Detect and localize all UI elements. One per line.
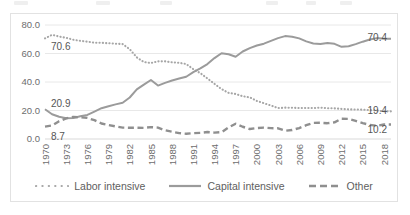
x-axis-tick-label: 2015 (357, 144, 368, 165)
x-axis-tick-label: 1994 (209, 144, 220, 165)
series-line-capital-intensive (45, 36, 391, 118)
x-axis-tick-label: 2006 (294, 144, 305, 165)
x-axis-tick-label: 1985 (146, 144, 157, 165)
x-axis-tick-label: 2009 (315, 144, 326, 165)
y-axis-tick-label: 40.0 (22, 76, 41, 87)
x-axis-tick-label: 1988 (167, 144, 178, 165)
cropped-title-strip (0, 0, 410, 11)
y-axis-tick-label: 80.0 (22, 19, 41, 30)
x-axis-tick-label: 1979 (103, 144, 114, 165)
cropped-text-fragment (306, 1, 316, 5)
plot-area: 0.020.040.060.080.0197019731976197919821… (11, 14, 397, 201)
data-label-end-capital-intensive: 70.4 (368, 32, 388, 43)
cropped-text-fragment (160, 1, 172, 5)
cropped-text-fragment (340, 1, 352, 5)
cropped-text-fragment (266, 1, 278, 5)
legend-label-labor-intensive: Labor intensive (74, 180, 145, 192)
x-axis-tick-label: 2000 (251, 144, 262, 165)
data-label-start-labor-intensive: 70.6 (51, 41, 71, 52)
x-axis-tick-label: 1991 (188, 144, 199, 165)
solid-line-swatch (168, 182, 202, 190)
x-axis-tick-label: 2003 (273, 144, 284, 165)
data-label-start-other: 8.7 (51, 131, 65, 142)
y-axis-tick-label: 0.0 (27, 133, 40, 144)
legend-item-other[interactable]: Other (308, 180, 373, 192)
chart-card: 0.020.040.060.080.0197019731976197919821… (10, 13, 398, 202)
legend-item-labor-intensive[interactable]: Labor intensive (35, 180, 145, 192)
x-axis-tick-label: 2018 (379, 144, 390, 165)
chart-legend: Labor intensive Capital intensive Other (11, 180, 397, 192)
series-line-other (45, 117, 391, 134)
legend-item-capital-intensive[interactable]: Capital intensive (168, 180, 284, 192)
x-axis-tick-label: 1976 (82, 144, 93, 165)
x-axis-tick-label: 1970 (40, 144, 51, 165)
cropped-text-fragment (14, 1, 28, 5)
x-axis-tick-label: 1997 (230, 144, 241, 165)
data-label-end-labor-intensive: 19.4 (368, 105, 388, 116)
dotted-line-swatch (35, 182, 69, 190)
x-axis-tick-label: 1982 (124, 144, 135, 165)
dashed-line-swatch (308, 182, 342, 190)
data-label-end-other: 10.2 (368, 124, 388, 135)
y-axis-tick-label: 60.0 (22, 48, 41, 59)
cropped-text-fragment (96, 1, 110, 5)
y-axis-tick-label: 20.0 (22, 105, 41, 116)
x-axis-tick-label: 1973 (61, 144, 72, 165)
data-label-start-capital-intensive: 20.9 (51, 98, 71, 109)
legend-label-capital-intensive: Capital intensive (207, 180, 284, 192)
legend-label-other: Other (347, 180, 373, 192)
line-chart: 0.020.040.060.080.0197019731976197919821… (11, 14, 397, 201)
x-axis-tick-label: 2012 (336, 144, 347, 165)
